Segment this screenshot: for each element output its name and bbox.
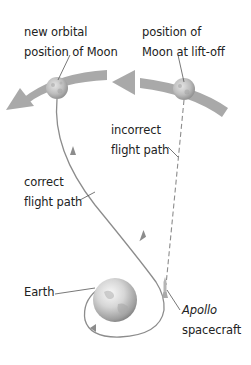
path-arrow-icon [70,146,76,155]
label-position-at-liftoff: position of Moon at lift-off [142,22,225,62]
label-new-orbital-position: new orbital position of Moon [24,22,118,62]
moon-orbit-arrow-right [112,70,228,117]
earth-globe [93,278,137,322]
leader-correct-path [80,192,95,200]
label-correct-flight-path: correct flight path [24,172,82,212]
apollo-spacecraft-icon [162,277,168,298]
label-earth: Earth [24,282,54,302]
leader-incorrect-path [168,147,178,157]
leader-earth [55,288,95,294]
leader-spacecraft [167,290,180,310]
moon-new-position [46,77,68,99]
label-apollo-spacecraft: Apollo spacecraft [182,300,241,340]
label-incorrect-flight-path: incorrect flight path [111,120,169,160]
path-arrow-icon [138,230,146,242]
